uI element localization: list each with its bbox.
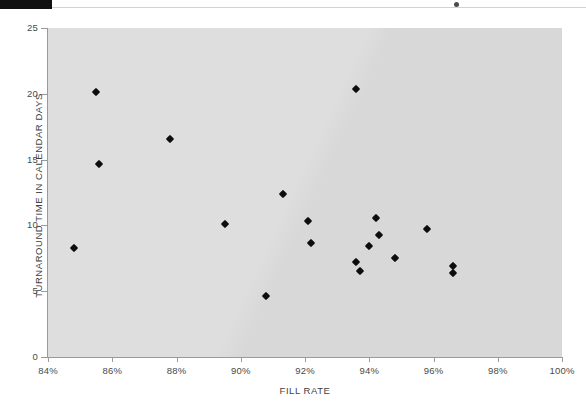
x-axis-tick-label: 94% [359, 365, 379, 376]
y-axis-line [47, 28, 48, 358]
x-axis-tick-label: 98% [488, 365, 508, 376]
y-axis-tick [41, 28, 47, 29]
y-axis-tick-label: 25 [20, 22, 38, 33]
x-axis-tick [177, 357, 178, 362]
y-axis-tick-label: 0 [20, 351, 38, 362]
x-axis-tick [498, 357, 499, 362]
x-axis-tick [305, 357, 306, 362]
x-axis-tick [369, 357, 370, 362]
x-axis-tick [48, 357, 49, 362]
x-axis-tick-label: 100% [549, 365, 574, 376]
x-axis-tick [434, 357, 435, 362]
x-axis-tick [112, 357, 113, 362]
scatter-chart: 0510152025 84%86%88%90%92%94%96%98%100% … [0, 0, 586, 409]
x-axis-tick-label: 96% [424, 365, 444, 376]
x-axis-tick-label: 90% [231, 365, 251, 376]
x-axis-tick-label: 84% [38, 365, 58, 376]
x-axis-tick [562, 357, 563, 362]
x-axis-tick [241, 357, 242, 362]
plot-area [48, 28, 562, 357]
y-axis-title: TURNAROUND TIME IN CALENDAR DAYS [33, 66, 44, 326]
x-axis-tick-label: 92% [295, 365, 315, 376]
x-axis-tick-label: 88% [167, 365, 187, 376]
x-axis-tick-label: 86% [102, 365, 122, 376]
x-axis-title: FILL RATE [48, 385, 562, 396]
y-axis-tick [41, 357, 47, 358]
